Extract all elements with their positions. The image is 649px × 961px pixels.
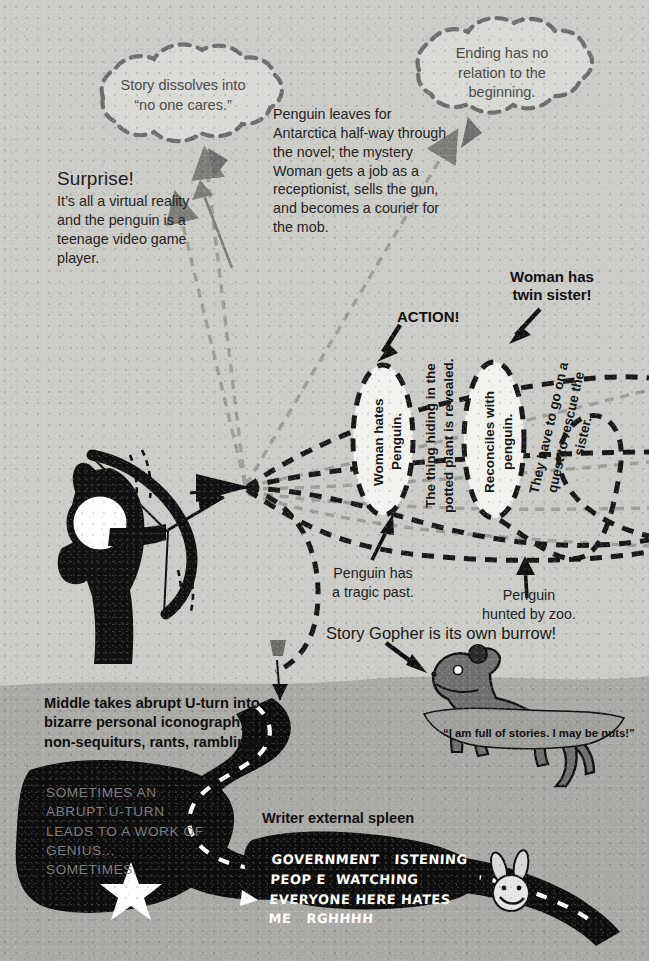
rant-line-2: PEOP E WATCHING [270,870,467,890]
rant-line-1: GOVERNMENT ISTENING [271,850,468,870]
caption-story-gopher: Story Gopher is its own burrow! [326,624,556,643]
rant-line-4: ME RGHHHH [268,909,465,929]
rant-line-3: EVERYONE HERE HATES [269,890,466,910]
cloud-ending-line-3: beginning. [437,83,567,103]
note-potted-plant: The thing hiding in the potted plant is … [422,358,456,514]
cloud-ending-line-2: relation to the [437,64,567,84]
caption-hunted-by-zoo: Penguin hunted by zoo. [474,586,584,623]
cloud-no-one-cares-text: Story dissolves into “no one cares.” [104,76,262,115]
surprise-title: Surprise! [57,168,134,190]
penguin-antarctica-note: Penguin leaves for Antarctica half-way t… [273,105,451,237]
label-action: ACTION! [397,308,460,326]
dark-blob-caption: SOMETIMES AN ABRUPT U-TURN LEADS TO A WO… [46,783,206,879]
rant-text: GOVERNMENT ISTENING PEOP E WATCHING EVER… [268,850,468,929]
oval-reconciles-text: Reconciles with penguin. [481,378,507,506]
ground-middle-uturn: Middle takes abrupt U-turn into bizarre … [44,694,280,752]
oval-woman-hates-penguin-text: Woman hates Penguin. [370,378,396,506]
gopher-quote: “I am full of stories. I may be nuts!” [443,727,635,739]
cloud-line-2: “no one cares.” [104,96,262,116]
label-twin-sister: Woman has twin sister! [497,268,607,305]
illustration-canvas: Story dissolves into “no one cares.” End… [0,0,649,961]
cloud-ending-line-1: Ending has no [437,44,567,64]
cloud-line-1: Story dissolves into [104,76,262,96]
caption-tragic-past: Penguin has a tragic past. [318,564,428,601]
surprise-body: It’s all a virtual reality and the pengu… [57,192,207,267]
cloud-ending-text: Ending has no relation to the beginning. [437,44,567,103]
spleen-label: Writer external spleen [262,810,414,826]
